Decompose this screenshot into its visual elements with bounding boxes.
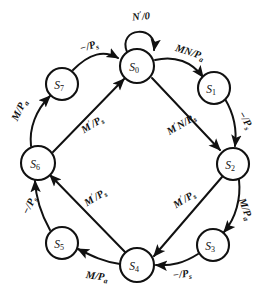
state-node-S0[interactable]: S0 — [120, 49, 154, 83]
state-node-S4[interactable]: S4 — [120, 248, 154, 282]
state-node-S5[interactable]: S5 — [46, 227, 78, 259]
edge-S1-S2 — [225, 99, 236, 146]
edge-S3-S4 — [156, 254, 198, 265]
edge-S6-S7 — [31, 96, 50, 146]
edge-S5-S6 — [35, 181, 50, 230]
edge-label-S2-S3: M/Pa — [235, 196, 255, 223]
state-transition-diagram: S0 S1 S2 S3 S4 S5 — [0, 0, 275, 298]
state-node-S2[interactable]: S2 — [217, 148, 249, 180]
state-node-S7[interactable]: S7 — [46, 68, 78, 100]
edge-S2-S3 — [224, 180, 239, 232]
edge-S0-S1 — [155, 58, 203, 77]
edge-label-S4-S6: M′/Ps — [80, 184, 109, 210]
edge-S7-S0 — [73, 54, 118, 70]
edge-label-S4-S5: M/Pa — [84, 269, 109, 285]
states-group: S0 S1 S2 S3 S4 S5 — [21, 49, 249, 282]
edge-label-S3-S4: −/Ps — [172, 267, 192, 282]
edge-label-S0-S4: M′N/Ps — [163, 109, 198, 139]
state-diagram-container: S0 S1 S2 S3 S4 S5 — [0, 0, 275, 298]
edge-label-S0-S0: N′/0 — [130, 8, 151, 23]
state-node-S1[interactable]: S1 — [198, 72, 230, 104]
state-node-S3[interactable]: S3 — [197, 229, 229, 261]
edge-label-S6-S7: M/Pa — [9, 97, 31, 124]
edge-label-S1-S2: −/Ps — [235, 109, 256, 132]
state-node-S6[interactable]: S6 — [21, 146, 55, 180]
edge-S4-S5 — [78, 249, 120, 264]
edge-label-S6-S0: M′/Ps — [77, 111, 106, 137]
edge-label-S7-S0: −/Ps — [78, 38, 100, 56]
